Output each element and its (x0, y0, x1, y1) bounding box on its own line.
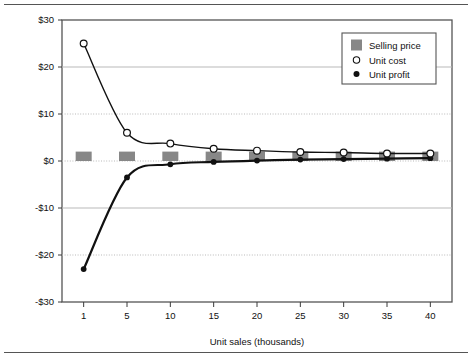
x-axis-tick-label: 5 (124, 310, 129, 321)
legend-label-selling-price: Selling price (369, 40, 421, 51)
marker-unit-profit (297, 157, 303, 163)
y-axis-tick-label: $0 (43, 155, 54, 166)
y-axis-tick-label: $30 (38, 14, 54, 25)
bar-selling-price (119, 152, 135, 161)
marker-unit-cost (297, 149, 304, 156)
marker-unit-profit (124, 175, 130, 181)
x-axis-tick-label: 20 (252, 310, 263, 321)
y-axis-tick-label: $20 (38, 61, 54, 72)
legend-label-unit-cost: Unit cost (369, 55, 406, 66)
chart-legend: Selling price Unit cost Unit profit (342, 33, 436, 84)
legend-marker-unit-profit (354, 71, 360, 77)
marker-unit-cost (254, 147, 261, 154)
marker-unit-cost (124, 129, 131, 136)
x-axis-tick-label: 30 (338, 310, 349, 321)
x-axis: 1510152025303540 (81, 302, 436, 321)
marker-unit-profit (341, 156, 347, 162)
y-axis: $30$20$10$0-$10-$20-$30 (35, 14, 62, 307)
marker-unit-profit (167, 161, 173, 167)
x-axis-tick-label: 15 (208, 310, 219, 321)
legend-marker-unit-cost (353, 57, 359, 63)
marker-unit-profit (81, 266, 87, 272)
x-axis-tick-label: 10 (165, 310, 176, 321)
marker-unit-cost (340, 149, 347, 156)
y-axis-tick-label: $10 (38, 108, 54, 119)
y-axis-tick-label: -$20 (35, 249, 54, 260)
x-axis-tick-label: 1 (81, 310, 86, 321)
legend-swatch-selling-price (351, 40, 362, 51)
bar-selling-price (162, 152, 178, 161)
y-axis-tick-label: -$30 (35, 296, 54, 307)
marker-unit-cost (427, 150, 434, 157)
marker-unit-profit (211, 159, 217, 165)
marker-unit-cost (384, 150, 391, 157)
bar-selling-price (76, 152, 92, 161)
marker-unit-cost (167, 140, 174, 147)
y-axis-tick-label: -$10 (35, 202, 54, 213)
x-axis-tick-label: 25 (295, 310, 306, 321)
legend-label-unit-profit: Unit profit (369, 69, 410, 80)
marker-unit-cost (80, 40, 87, 47)
figure-container: $30$20$10$0-$10-$20-$30 1510152025303540… (0, 0, 472, 362)
chart-canvas: $30$20$10$0-$10-$20-$30 1510152025303540… (0, 0, 472, 362)
x-axis-tick-label: 35 (382, 310, 393, 321)
marker-unit-profit (254, 158, 260, 164)
x-axis-tick-label: 40 (425, 310, 436, 321)
marker-unit-cost (210, 145, 217, 152)
x-axis-title: Unit sales (thousands) (210, 336, 305, 347)
